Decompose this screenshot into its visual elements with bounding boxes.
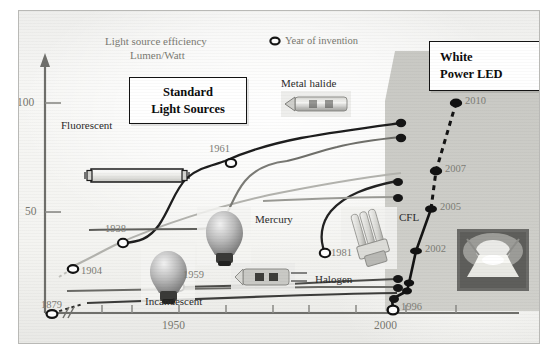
led-dot-2000 — [404, 280, 414, 287]
marker-1961 — [226, 159, 236, 167]
year-label-2002: 2002 — [425, 243, 446, 254]
marker-1879 — [47, 310, 58, 318]
marker-1981 — [320, 249, 330, 257]
series-incandescent — [87, 293, 397, 303]
callout-led-text: White Power LED — [440, 49, 503, 83]
year-label-2007: 2007 — [445, 163, 466, 174]
dot-mercury-end — [393, 194, 403, 202]
label-metal-halide: Metal halide — [281, 77, 336, 89]
x-tick-label-2000: 2000 — [374, 319, 397, 331]
dot-incandescent-end — [389, 295, 399, 303]
year-label-1879: 1879 — [41, 299, 62, 310]
figure-canvas: Light source efficiency Lumen/Watt Year … — [0, 0, 556, 356]
dot-fluorescent-end — [396, 119, 406, 127]
dot-cfl-end — [393, 178, 403, 186]
legend-label: Year of invention — [285, 35, 358, 46]
callout-standard-light-sources: Standard Light Sources — [129, 77, 247, 124]
led-dot-2007 — [430, 167, 442, 176]
year-label-1996: 1996 — [401, 301, 422, 312]
metal-halide-lamp-photo — [281, 91, 351, 117]
led-dot-2005 — [425, 205, 437, 213]
callout-standard-text: Standard Light Sources — [151, 84, 225, 118]
led-dot-1999 — [402, 288, 412, 295]
dot-halogen2-end — [393, 284, 403, 292]
mercury-lamp-photo — [197, 207, 251, 266]
label-halogen: Halogen — [315, 273, 352, 285]
series-cfl-lower — [263, 197, 397, 201]
marker-1904 — [68, 265, 78, 273]
label-incandescent: Incandescent — [145, 295, 202, 307]
callout-standard-line1: Standard — [151, 84, 225, 101]
year-label-1904: 1904 — [81, 265, 102, 276]
callout-white-power-led: White Power LED — [429, 41, 540, 91]
callout-led-line1: White — [440, 49, 503, 66]
label-fluorescent: Fluorescent — [61, 119, 112, 131]
dot-halogen-end — [393, 275, 403, 283]
year-label-2005: 2005 — [440, 201, 461, 212]
led-dot-2010 — [450, 99, 462, 108]
label-mercury: Mercury — [255, 213, 293, 225]
callout-led-line2: Power LED — [440, 66, 503, 83]
marker-1938 — [118, 239, 128, 247]
year-label-1959: 1959 — [183, 269, 204, 280]
figure-plate: Light source efficiency Lumen/Watt Year … — [18, 10, 540, 344]
axis-title-line1: Light source efficiency — [105, 35, 207, 47]
cfl-lamp-photo — [341, 207, 397, 269]
y-tick-label-100: 100 — [18, 96, 34, 108]
white-power-led-photo — [457, 229, 529, 291]
y-tick-label-50: 50 — [25, 205, 37, 217]
year-label-1981: 1981 — [331, 247, 352, 258]
led-dot-2002 — [410, 247, 422, 254]
year-label-2010: 2010 — [465, 95, 486, 106]
legend-marker-icon — [270, 38, 279, 45]
fluorescent-tube-icon — [85, 169, 189, 182]
year-label-1961: 1961 — [209, 143, 230, 154]
callout-standard-line2: Light Sources — [151, 101, 225, 118]
x-tick-label-1950: 1950 — [162, 319, 185, 331]
year-label-1938: 1938 — [105, 223, 126, 234]
axis-title-line2: Lumen/Watt — [130, 49, 185, 61]
dot-metalhalide-end — [396, 134, 406, 142]
label-cfl: CFL — [399, 211, 419, 223]
marker-1996 — [388, 306, 399, 315]
y-axis-arrow-icon — [40, 53, 50, 67]
